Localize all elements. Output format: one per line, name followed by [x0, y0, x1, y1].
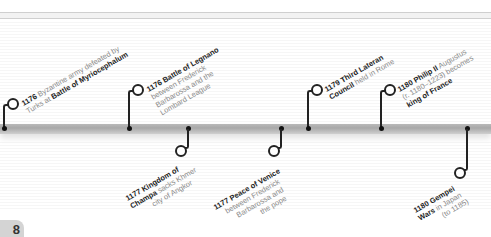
timeline-dot [379, 126, 384, 131]
event-stem [128, 93, 130, 128]
timeline-dot [306, 126, 311, 131]
event-stem [466, 129, 468, 167]
event-marker-icon [132, 84, 144, 96]
event-marker-icon [175, 145, 187, 157]
event-marker-icon [454, 167, 466, 179]
timeline-bar [0, 124, 491, 134]
page-number-badge: 8 [0, 220, 24, 237]
event-stem [307, 93, 309, 128]
event-stem [380, 93, 382, 128]
event-marker-icon [268, 145, 280, 157]
event-stem [3, 107, 5, 128]
event-marker-icon [7, 98, 19, 110]
top-rule [0, 12, 491, 19]
timeline-dot [127, 126, 132, 131]
event-marker-icon [311, 84, 323, 96]
timeline-dot [2, 126, 7, 131]
event-marker-icon [384, 84, 396, 96]
